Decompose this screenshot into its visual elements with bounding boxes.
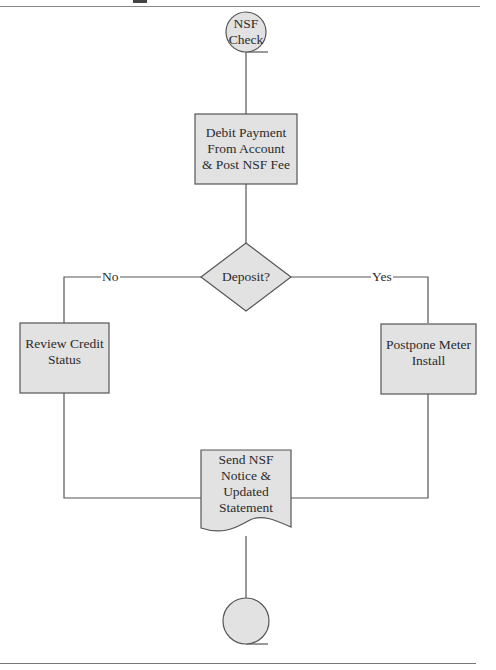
connector-yes-branch (291, 277, 428, 323)
send-node-label: Send NSF Notice & Updated Statement (201, 452, 291, 516)
end-node (223, 598, 269, 644)
no-edge-label: No (101, 270, 120, 284)
debit-node-label: Debit Payment From Account & Post NSF Fe… (195, 125, 297, 173)
review-node-label: Review Credit Status (18, 336, 111, 368)
connector-postpone-send (291, 394, 428, 498)
flowchart-canvas (0, 0, 496, 670)
decision-node-label: Deposit? (201, 269, 291, 285)
postpone-node-label: Postpone Meter Install (379, 337, 478, 369)
start-node-label: NSF Check (222, 16, 270, 48)
yes-edge-label: Yes (371, 270, 393, 284)
connector-review-send (64, 393, 201, 498)
connector-no-branch (64, 277, 201, 323)
bottom-rule (0, 663, 476, 664)
